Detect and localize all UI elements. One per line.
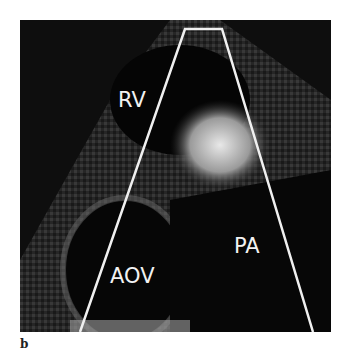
- echo-sector-graphic: [20, 20, 331, 332]
- label-rv: RV: [118, 88, 146, 112]
- panel-label: b: [20, 337, 28, 351]
- label-pa: PA: [234, 234, 260, 258]
- echocardiogram-image: [20, 20, 331, 332]
- label-aov: AOV: [110, 264, 155, 288]
